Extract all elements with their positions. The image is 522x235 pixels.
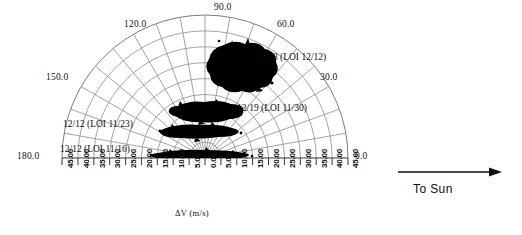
radial-tick-25R: 25.00 [288,149,297,168]
cluster-blob-12-12-1123 [159,122,243,142]
radial-tick-30R: 30.00 [304,149,313,168]
radial-tick-20L: 20.00 [145,149,154,168]
radial-tick-15R: 15.00 [256,149,265,168]
angle-label-90: 90.0 [214,2,231,12]
radial-tick-5L: 5.00 [193,153,202,168]
cluster-blob-12-19 [169,99,244,125]
radial-tick-40R: 40.00 [335,149,344,168]
radial-tick-45R: 45.00 [351,149,360,168]
plot-canvas [0,0,522,235]
cluster-blob-12-28 [206,38,278,92]
angle-label-150: 150.0 [46,72,68,82]
cluster-label-12-19: 12/19 (LOI 11/30) [237,103,307,113]
angle-label-60: 60.0 [277,19,294,29]
radial-tick-45L: 45.00 [66,149,75,168]
radial-tick-20R: 20.00 [272,149,281,168]
to-sun-arrow [398,168,502,177]
angle-label-120: 120.0 [124,19,146,29]
cluster-label-12-28: 12/28 (LOI 12/12) [256,52,326,62]
radial-tick-10R: 10.00 [240,149,249,168]
radial-tick-35R: 35.00 [320,149,329,168]
radial-tick-10L: 10.00 [177,149,186,168]
radial-tick-0: 0.00 [209,153,218,168]
radial-tick-25L: 25.00 [129,149,138,168]
radial-tick-15L: 15.00 [161,149,170,168]
cluster-label-12-12-1123: 12/12 (LOI 11/23) [63,119,133,129]
radial-tick-35L: 35.00 [98,149,107,168]
radial-tick-5R: 5.00 [224,153,233,168]
angle-label-180: 180.0 [17,151,39,161]
radial-tick-30L: 30.00 [113,149,122,168]
x-axis-title: ΔV (m/s) [175,208,209,218]
radial-tick-40L: 40.00 [82,149,91,168]
angle-label-30: 30.0 [320,72,337,82]
polar-plot-figure: 90.0 120.0 60.0 150.0 30.0 180.0 0.0 12/… [0,0,522,235]
to-sun-label: To Sun [413,182,453,196]
